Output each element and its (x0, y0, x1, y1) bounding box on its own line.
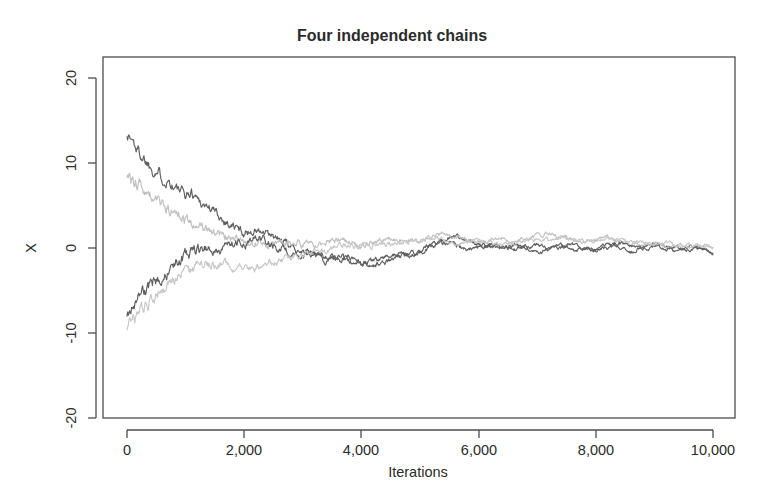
x-tick-label-2000: 2,000 (226, 442, 262, 458)
y-tick-label-20: 20 (63, 70, 79, 86)
y-tick-label-minus20: -20 (63, 408, 79, 429)
x-tick-label-6000: 6,000 (461, 442, 497, 458)
x-tick-label-8000: 8,000 (578, 442, 614, 458)
y-tick-label-0: 0 (63, 244, 79, 252)
y-axis-label: X (23, 243, 39, 253)
chart-canvas: Four independent chains X Iterations 20 … (0, 0, 772, 493)
chart-figure: Four independent chains X Iterations 20 … (0, 0, 772, 493)
x-tick-label-10000: 10,000 (691, 442, 735, 458)
chart-title: Four independent chains (297, 27, 487, 44)
y-tick-label-minus10: -10 (63, 323, 79, 344)
x-axis-label: Iterations (388, 464, 448, 480)
y-tick-label-10: 10 (63, 155, 79, 171)
x-tick-label-0: 0 (123, 442, 131, 458)
x-tick-label-4000: 4,000 (343, 442, 379, 458)
